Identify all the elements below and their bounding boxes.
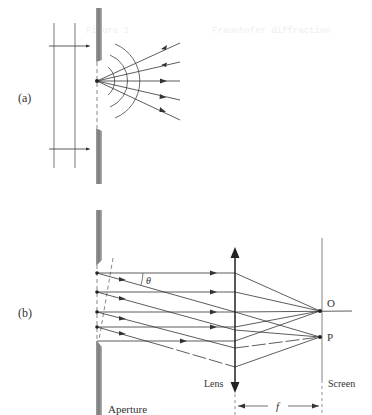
rays-to-p [235, 312, 320, 367]
point-p [318, 335, 322, 339]
lens-arrow-top-icon [231, 247, 240, 258]
point-o-label: O [327, 297, 335, 309]
panel-b-label: (b) [18, 306, 32, 320]
horizontal-rays [97, 273, 235, 341]
tilted-wavefront [99, 258, 113, 340]
aperture-label: Aperture [108, 403, 147, 415]
aperture-plate-top [96, 8, 102, 62]
panel-a: (a) [18, 8, 180, 184]
point-p-label: P [327, 331, 333, 343]
diffraction-diagram: Figure 1 Fraunhofer diffraction (a) [0, 0, 372, 415]
horizontal-ray-arrowheads [180, 271, 217, 344]
lens-label: Lens [204, 378, 224, 389]
ghost-text-left: Figure 1 [86, 26, 129, 36]
point-source [95, 79, 99, 83]
focal-arrow-right-icon [312, 404, 319, 409]
theta-label: θ [146, 275, 151, 286]
panel-a-label: (a) [18, 91, 31, 105]
diverging-rays [97, 43, 180, 120]
ghost-text-right: Fraunhofer diffraction [212, 26, 331, 36]
oblique-rays [97, 273, 235, 367]
focal-length-label: f [276, 400, 281, 412]
lens-arrow-bottom-icon [231, 382, 240, 393]
aperture-plate-bottom-b [96, 341, 102, 415]
screen-label: Screen [328, 378, 355, 389]
aperture-plate-top-b [96, 210, 102, 265]
theta-arc [141, 273, 143, 285]
panel-b: (b) [18, 210, 355, 415]
aperture-plate-bottom [96, 128, 102, 184]
ray-arrowheads [160, 45, 168, 112]
focal-arrow-left-icon [238, 404, 245, 409]
point-o [318, 309, 322, 313]
